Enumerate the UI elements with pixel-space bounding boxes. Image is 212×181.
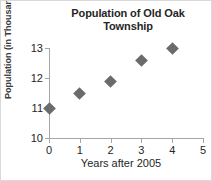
population-scatter-chart: Population of Old Oak Township Populatio… [0,0,212,181]
plot-area: 10111213 012345 [49,44,203,142]
x-axis-line [49,138,203,139]
x-tick-label-0: 0 [46,144,52,156]
x-tick-4 [172,138,173,143]
x-tick-label-3: 3 [138,144,144,156]
y-tick-13 [45,48,50,49]
x-tick-label-5: 5 [200,144,206,156]
x-tick-5 [203,138,204,143]
y-axis-line [49,48,50,138]
x-tick-label-1: 1 [77,144,83,156]
y-tick-label-10: 10 [31,132,43,144]
y-tick-label-13: 13 [31,42,43,54]
x-tick-3 [141,138,142,143]
data-point [73,87,86,100]
y-axis-title: Population (in Thousands) [3,0,17,99]
x-tick-label-4: 4 [169,144,175,156]
chart-title: Population of Old Oak Township [45,7,211,33]
chart-title-line-1: Population of Old Oak [45,7,211,20]
data-point [135,54,148,67]
data-point [104,75,117,88]
x-tick-1 [80,138,81,143]
y-tick-label-11: 11 [32,102,43,114]
chart-title-line-2: Township [45,20,211,33]
y-tick-label-12: 12 [31,72,43,84]
x-axis-title: Years after 2005 [31,157,211,169]
x-tick-0 [49,138,50,143]
x-tick-label-2: 2 [108,144,114,156]
data-point [43,102,56,115]
x-tick-2 [111,138,112,143]
data-point [166,42,179,55]
y-tick-12 [45,78,50,79]
